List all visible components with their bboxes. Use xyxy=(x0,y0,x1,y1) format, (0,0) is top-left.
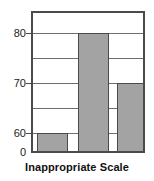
y-axis: 80 70 60 0 xyxy=(0,0,26,181)
chart-figure: 80 70 60 0 Inappropriate Scale xyxy=(0,0,154,181)
chart-caption: Inappropriate Scale xyxy=(0,161,154,173)
bar-1 xyxy=(37,133,68,151)
bar-2 xyxy=(78,33,109,151)
plot-inner xyxy=(33,13,143,151)
y-axis-label-60: 60 xyxy=(2,128,26,139)
plot-area xyxy=(31,11,145,153)
y-axis-label-0: 0 xyxy=(2,147,26,158)
y-axis-label-70: 70 xyxy=(2,78,26,89)
bar-3 xyxy=(117,83,143,151)
y-axis-label-80: 80 xyxy=(2,28,26,39)
